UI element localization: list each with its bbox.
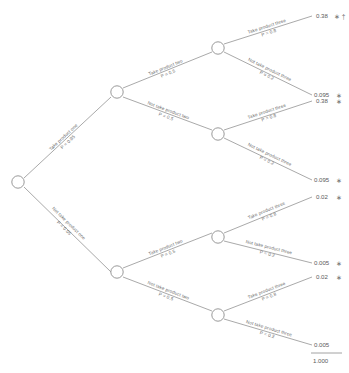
leaf-marks: ∗ <box>336 98 342 105</box>
leaf-marks: ∗ † <box>334 13 346 20</box>
leaf-marks: ∗ <box>336 260 342 267</box>
leaf-marks: ∗ <box>336 274 342 281</box>
edge-take-product-two-upper <box>123 52 212 88</box>
leaf-marks: ∗ <box>336 194 342 201</box>
leaf-row-4: 0.095 ∗ <box>314 176 342 184</box>
node-not-take-product-one[interactable] <box>111 266 123 278</box>
leaf-row-8: 0.005 <box>314 341 330 348</box>
leaf-row-6: 0.005 ∗ <box>314 259 342 267</box>
decision-tree-diagram: Take product one P = 0.95 Not take produ… <box>0 0 349 373</box>
edge-take-product-one <box>24 97 111 178</box>
node-take-two-lower[interactable] <box>212 231 224 243</box>
leaf-value: 0.005 <box>314 259 330 266</box>
node-not-take-two-upper[interactable] <box>212 128 224 140</box>
leaf-row-5: 0.02 ∗ <box>316 193 342 201</box>
tree-canvas: Take product one P = 0.95 Not take produ… <box>0 0 349 373</box>
leaf-value: 0.005 <box>314 341 330 348</box>
leaf-marks: ∗ <box>336 177 342 184</box>
leaf-value: 0.38 <box>316 97 328 104</box>
leaf-value: 0.02 <box>316 193 328 200</box>
leaf-row-1: 0.38 ∗ † <box>316 12 346 20</box>
leaf-value: 0.095 <box>314 176 330 183</box>
leaf-row-3: 0.38 ∗ <box>316 97 342 105</box>
leaf-row-7: 0.02 ∗ <box>316 273 342 281</box>
total-value: 1.000 <box>313 357 329 364</box>
leaf-value: 0.02 <box>316 273 328 280</box>
node-root[interactable] <box>12 176 24 188</box>
node-take-two-upper[interactable] <box>212 42 224 54</box>
leaf-value: 0.38 <box>316 12 328 19</box>
node-take-product-one[interactable] <box>111 86 123 98</box>
node-not-take-two-lower[interactable] <box>212 309 224 321</box>
